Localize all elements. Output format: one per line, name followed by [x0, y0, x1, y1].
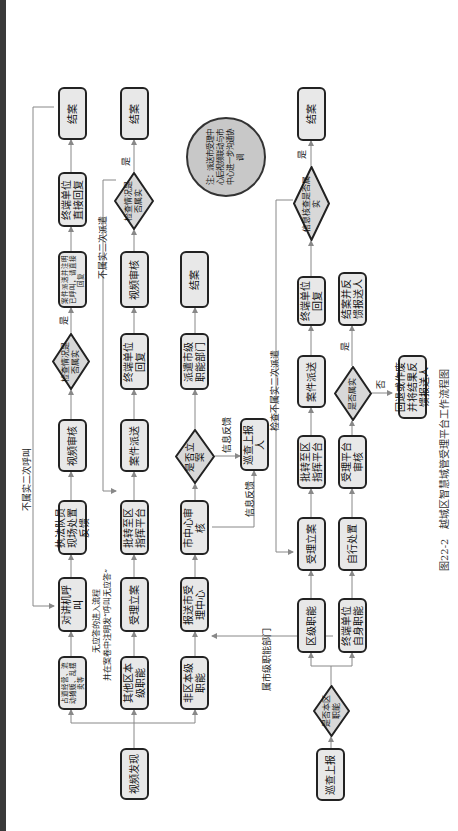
decision-is-true: 是否属实: [334, 366, 372, 421]
node-enforcement-feedback: 执法队员现场处置反馈: [58, 500, 87, 555]
decision-is-district-function: 是否本区职能: [313, 685, 350, 737]
node-dispatch-city-dept: 派遣市级职能部门: [180, 333, 209, 390]
node-accept-case-2: 受理立案: [297, 517, 326, 571]
node-label: 结案: [67, 104, 79, 124]
node-non-district-function: 非区本级职能: [180, 656, 209, 710]
node-label: 终端单位直接回复: [61, 176, 85, 223]
node-platform-review: 受理平台审核: [338, 435, 367, 489]
node-return-or-feedback: 回退或作废并将结果反馈报送人: [398, 355, 427, 419]
edge-label-yes-3: 是: [297, 150, 308, 159]
edge-label-not-true-recall: 不属实二次呼叫: [22, 448, 33, 511]
node-district-function: 区级职能: [297, 598, 326, 653]
node-label: 非区本级职能: [183, 660, 207, 706]
decision-label: 是否立案: [175, 429, 215, 484]
node-label: 案件派送并注明已呼叫，请直接回复: [61, 255, 85, 304]
node-label: 回退或作废并将结果反馈报送人: [395, 359, 431, 415]
node-video-discovery: 视频发现: [120, 748, 149, 800]
decision-label: 是否本区职能: [313, 685, 350, 737]
node-patrol-report-start: 巡查上报: [316, 748, 345, 801]
node-label: 结案并反馈报送人: [341, 276, 365, 322]
edge-label-info-feedback-2: 信息反馈: [222, 417, 233, 453]
edge-label-no-1: 否: [376, 380, 387, 389]
node-label: 受理平台审核: [341, 439, 365, 485]
node-label: 对讲机呼叫: [61, 581, 85, 628]
node-case-dispatch-call: 案件派送并注明已呼叫，请直接回复: [58, 251, 87, 308]
figure-caption: 图22-2 越城区智慧城管受理平台工作流程图: [436, 369, 451, 571]
edge-label-city-dept: 属市级职能部门: [262, 628, 273, 691]
node-label: 批转至区指挥平台: [300, 439, 324, 485]
decision-info-check-true: 信息核查是否属实: [293, 166, 330, 241]
node-close-case-1: 结案: [58, 87, 87, 140]
node-intercom-call: 对讲机呼叫: [58, 577, 87, 632]
node-other-district-function: 其他区本级职能: [120, 656, 149, 710]
node-case-dispatch-2: 案件派送: [297, 355, 326, 408]
node-terminal-self-function: 终端单位自身职能: [338, 598, 367, 653]
note-text: 注：派送市受理中心后视频联动与市中心进一步沟通协调: [206, 129, 246, 185]
node-label: 终端单位回复: [300, 280, 324, 322]
node-patrol-reporter: 巡查上报人: [240, 418, 269, 471]
edge-label-check-not-true-redispatch: 检查不属实二次派遣: [270, 350, 281, 431]
note-circle: 注：派送市受理中心后视频联动与市中心进一步沟通协调: [186, 117, 266, 197]
node-label: 其他区本级职能: [123, 660, 147, 706]
node-label: 视频审核: [67, 426, 79, 466]
node-label: 派遣市级职能部门: [183, 337, 207, 386]
node-label: 视频审核: [129, 260, 141, 300]
node-terminal-reply-1: 终端单位回复: [120, 333, 149, 390]
node-close-case-3: 结案: [297, 87, 326, 141]
node-label: 占道经营、流动摊贩、乱摆卖等: [61, 660, 85, 706]
node-accept-case-1: 受理立案: [120, 577, 149, 632]
decision-label: 检查情况是否属实: [52, 333, 90, 390]
node-label: 执法队员现场处置反馈: [55, 504, 91, 551]
node-label: 市中心审核: [183, 504, 207, 551]
node-send-city-center: 报送市受理中心: [180, 577, 209, 632]
edge-label-no-answer: 无应答的进入流程: [91, 589, 102, 653]
node-label: 案件派送: [129, 426, 141, 466]
node-video-review-2: 视频审核: [120, 251, 149, 308]
node-label: 报送市受理中心: [183, 581, 207, 628]
edge-label-info-feedback-1: 信息反馈: [245, 481, 256, 517]
node-label: 结案: [306, 104, 318, 124]
node-label: 案件派送: [306, 362, 318, 402]
node-case-dispatch-1: 案件派送: [120, 419, 149, 472]
node-label: 终端单位回复: [123, 337, 147, 386]
node-street-issues: 占道经营、流动摊贩、乱摆卖等: [58, 656, 87, 710]
edge-label-yes-4: 是: [340, 342, 351, 351]
node-label: 终端单位自身职能: [341, 602, 365, 649]
decision-check-true-1: 检查情况是否属实: [52, 333, 90, 390]
node-close-case-city: 结案: [180, 251, 209, 308]
decision-check-true-2: 检查情况是否属实: [114, 172, 154, 230]
node-close-and-feedback: 结案并反馈报送人: [338, 272, 367, 326]
decision-is-filed: 是否立案: [175, 429, 215, 484]
node-label: 视频发现: [129, 754, 141, 794]
node-label: 结案: [189, 270, 201, 290]
node-video-review-1: 视频审核: [58, 419, 87, 472]
node-terminal-direct-reply: 终端单位直接回复: [58, 172, 87, 227]
edge-label-no-answer-note: 并在案卷中注明发“呼叫无应答”: [102, 569, 113, 681]
node-label: 结案: [129, 104, 141, 124]
node-label: 受理立案: [129, 585, 141, 625]
node-label: 批转至区指挥平台: [123, 504, 147, 551]
node-close-case-2: 结案: [120, 87, 149, 140]
decision-label: 信息核查是否属实: [293, 166, 330, 241]
node-label: 受理立案: [306, 524, 318, 564]
node-label: 区级职能: [306, 606, 318, 646]
node-label: 巡查上报人: [243, 422, 267, 467]
node-self-handling: 自行处置: [338, 517, 367, 571]
node-transfer-district-platform-1: 批转至区指挥平台: [120, 500, 149, 555]
flowchart: 视频发现 占道经营、流动摊贩、乱摆卖等 对讲机呼叫 执法队员现场处置反馈 视频审…: [0, 0, 458, 831]
edge-label-yes-1: 是: [59, 316, 70, 325]
node-label: 巡查上报: [325, 755, 337, 795]
edge-label-yes-2: 是: [121, 157, 132, 166]
edge-label-not-true-redispatch: 不属实二次派遣: [98, 216, 109, 279]
node-city-center-review: 市中心审核: [180, 500, 209, 555]
node-terminal-reply-2: 终端单位回复: [297, 276, 326, 326]
decision-label: 是否属实: [334, 366, 372, 421]
node-transfer-district-platform-2: 批转至区指挥平台: [297, 435, 326, 489]
node-label: 自行处置: [347, 524, 359, 564]
decision-label: 检查情况是否属实: [114, 172, 154, 230]
